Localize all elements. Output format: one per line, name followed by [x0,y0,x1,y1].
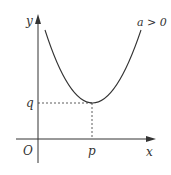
y-axis-arrow-icon [35,14,41,24]
x-axis-arrow-icon [146,136,156,142]
x-axis-label: x [146,145,153,159]
q-label: q [26,96,34,110]
parabola-diagram: y a > 0 q O p x [0,0,171,175]
y-axis-label: y [25,14,33,28]
p-label: p [88,144,96,158]
origin-label: O [23,144,33,158]
condition-label: a > 0 [137,16,167,29]
parabola-curve [45,30,141,103]
